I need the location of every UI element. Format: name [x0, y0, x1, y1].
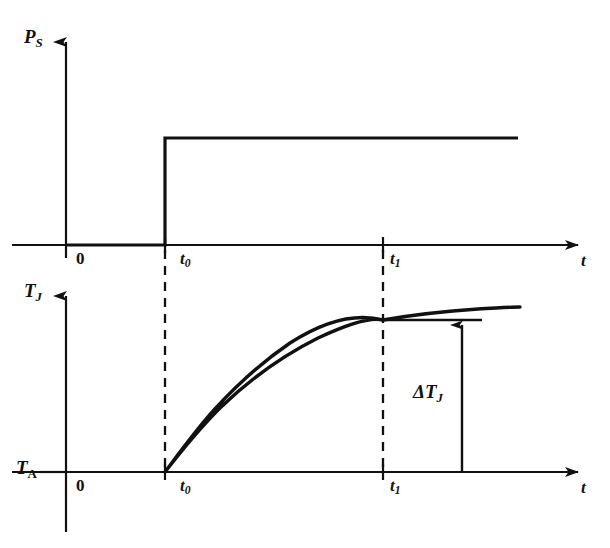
upper-tick-label-t1: t1: [390, 250, 401, 270]
lower-y-axis-label-sub: J: [36, 289, 42, 304]
lower-tick-label-t0: t0: [180, 477, 191, 497]
upper-y-axis-label-text: P: [24, 26, 36, 47]
upper-x-axis-label: t: [581, 252, 586, 269]
delta-tj-annotation-text: ΔT: [413, 381, 437, 402]
upper-tick-label-t1-sub: 1: [395, 257, 401, 270]
upper-y-axis-label: PS: [24, 27, 43, 50]
lower-origin-label: 0: [76, 477, 85, 494]
lower-tick-label-t0-sub: 0: [185, 484, 191, 497]
projection-lines-group: [165, 250, 383, 472]
lower-plot-group: [12, 296, 578, 532]
junction-temperature-curve: [165, 307, 520, 472]
upper-y-axis-label-sub: S: [36, 35, 43, 50]
upper-origin-label: 0: [76, 250, 85, 267]
thermal-response-figure: PS 0 t0 t1 t TJ TA 0 t0 t1 t ΔTJ: [0, 0, 610, 548]
upper-tick-label-t0: t0: [180, 250, 191, 270]
delta-tj-annotation-label: ΔTJ: [413, 382, 443, 405]
lower-tick-label-t1: t1: [390, 477, 401, 497]
lower-x-axis-label: t: [581, 479, 586, 496]
lower-baseline-label-ta: TA: [16, 458, 37, 481]
upper-tick-label-t0-sub: 0: [185, 257, 191, 270]
lower-tick-label-t1-sub: 1: [395, 484, 401, 497]
figure-canvas: [0, 0, 610, 548]
lower-y-axis-label-text: T: [24, 280, 36, 301]
delta-tj-annotation-sub: J: [437, 390, 443, 405]
lower-baseline-label-sub: A: [28, 466, 37, 481]
power-step-curve: [66, 138, 518, 245]
upper-plot-group: [12, 42, 578, 258]
lower-y-axis-label: TJ: [24, 281, 42, 304]
lower-baseline-label-text: T: [16, 457, 28, 478]
